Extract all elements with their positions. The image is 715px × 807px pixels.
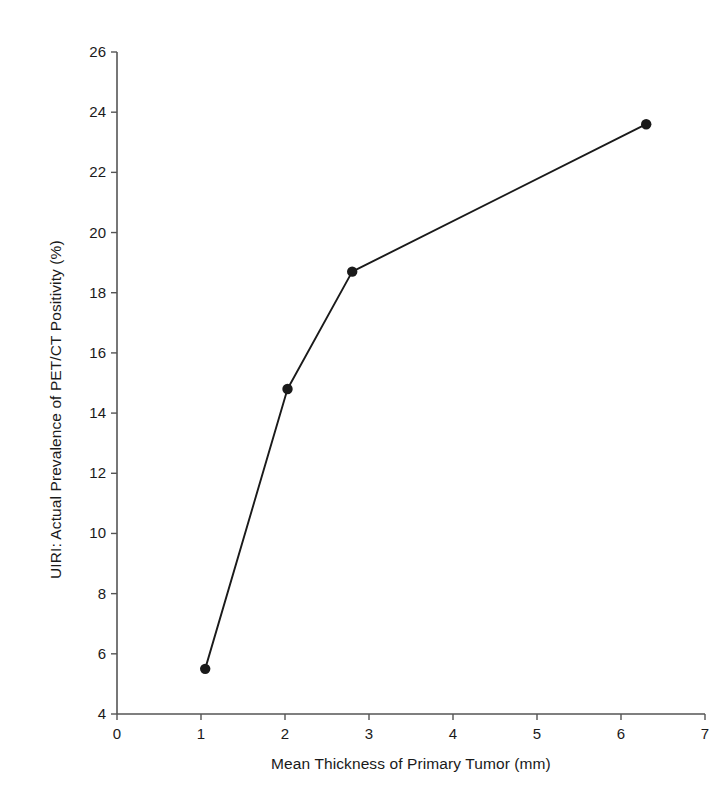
y-tick-label: 14 [89, 404, 106, 421]
x-tick-label: 0 [97, 725, 137, 742]
y-tick-label: 26 [89, 43, 106, 60]
y-tick-label: 12 [89, 464, 106, 481]
data-point-marker [282, 384, 292, 394]
data-point-marker [641, 119, 651, 129]
data-series-layer [200, 119, 651, 674]
x-tick-label: 6 [601, 725, 641, 742]
y-tick-label: 20 [89, 224, 106, 241]
x-tick-label: 7 [685, 725, 715, 742]
y-tick-label: 22 [89, 163, 106, 180]
x-tick-label: 2 [265, 725, 305, 742]
chart-figure: UIRI: Actual Prevalence of PET/CT Positi… [0, 0, 715, 807]
y-tick-label: 16 [89, 344, 106, 361]
y-tick-label: 4 [98, 705, 106, 722]
y-tick-label: 10 [89, 524, 106, 541]
tick-marks-layer [111, 52, 705, 720]
y-tick-label: 6 [98, 645, 106, 662]
line-chart-plot [0, 0, 715, 807]
x-tick-label: 3 [349, 725, 389, 742]
x-tick-label: 1 [181, 725, 221, 742]
data-point-marker [200, 664, 210, 674]
x-tick-label: 5 [517, 725, 557, 742]
series-line [205, 124, 646, 669]
y-tick-label: 8 [98, 585, 106, 602]
x-tick-label: 4 [433, 725, 473, 742]
y-tick-label: 18 [89, 284, 106, 301]
data-point-marker [347, 266, 357, 276]
y-tick-label: 24 [89, 103, 106, 120]
axis-layer [117, 52, 705, 714]
